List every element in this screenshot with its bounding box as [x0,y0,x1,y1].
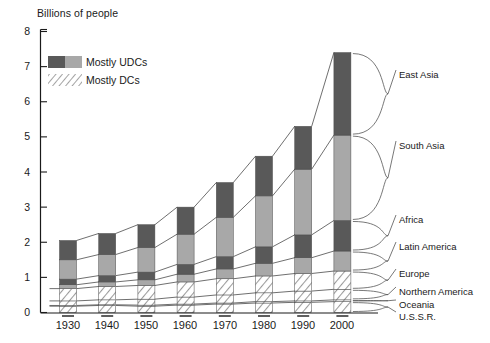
bar-segment [295,302,312,312]
connector-line [312,135,334,169]
bar-segment [177,207,194,234]
bar-segment [99,282,116,287]
connector-line [116,225,138,234]
bar-segment [216,304,233,312]
connector-line [194,279,216,282]
region-brace [353,54,388,135]
connector-line [233,263,255,269]
region-leader-line [388,307,396,312]
connector-line [77,282,99,285]
connector-line [312,289,334,291]
bar-segment [177,264,194,274]
connector-line [116,299,138,300]
connector-line [77,287,99,289]
connector-line [194,269,216,274]
bar-segment [177,234,194,264]
connector-line [273,235,295,247]
connector-line [273,301,295,302]
plot-area [0,0,490,343]
connector-line [116,248,138,255]
bar-segment [256,247,273,264]
legend-swatch-udc-light [65,56,82,68]
bar-segment [256,303,273,312]
connector-line [77,300,99,301]
connector-line [194,295,216,297]
connector-line [273,291,295,293]
region-leader-line [388,70,396,94]
region-leader-line [388,287,396,295]
connector-line [77,276,99,280]
connector-line [273,126,295,156]
region-leader-line [388,269,396,280]
population-stacked-bar-chart: Billions of people 8 7 6 5 4 3 2 1 0 Mos… [0,0,490,343]
bar-segment [138,299,155,305]
connector-line [312,251,334,258]
bar-segment [138,280,155,286]
region-brace [353,136,388,219]
bar-segment [60,289,77,301]
bar-segment [60,306,77,312]
bar-segment [216,269,233,279]
bar-segment [334,135,351,220]
bar-segment [138,306,155,312]
bar-segment [177,297,194,304]
region-brace [353,290,388,299]
connector-line [233,156,255,182]
connector-line [273,302,295,303]
connector-line [312,300,334,301]
bar-segment [334,53,351,136]
bar-segment [256,276,273,293]
connector-line [155,274,177,280]
connector-line [312,271,334,273]
bar-segment [256,263,273,276]
legend-swatches [48,56,82,86]
connector-line [155,207,177,225]
bar-segment [216,295,233,303]
connector-line [273,169,295,196]
bar-segment [216,279,233,295]
bar-segment [99,305,116,312]
bar-segment [60,285,77,289]
connector-line [116,305,138,306]
connector-line [77,255,99,260]
bar-segment [216,257,233,269]
connector-line [312,53,334,127]
bar-segment [295,169,312,235]
bar-segment [334,302,351,313]
connector-line [155,282,177,286]
region-leader-line [388,300,396,301]
connector-line [194,217,216,234]
bar-segment [177,274,194,282]
connector-line [77,233,99,240]
bar-segment [334,271,351,289]
bar-segment [256,293,273,302]
connector-line [116,280,138,282]
region-brace [353,221,388,250]
bar-segment [99,300,116,305]
connector-line [194,183,216,208]
bar-segment [295,235,312,258]
connector-line [233,247,255,257]
connector-line [273,274,295,276]
bar-segment [99,287,116,300]
connector-line [233,293,255,295]
bar-segment [334,251,351,271]
bar-segment [295,274,312,292]
bar-segment [138,248,155,273]
connector-line [273,258,295,264]
connector-line [233,196,255,217]
connector-line [233,276,255,279]
bar-segment [138,225,155,248]
connector-line [116,272,138,276]
label-leader-braces [353,54,396,312]
bar-segment [60,301,77,306]
region-brace [353,272,388,288]
legend-swatch-dc-hatch [48,74,82,86]
bar-segment [216,217,233,256]
bar-segment [334,289,351,300]
connector-line [155,234,177,247]
bar-segment [99,255,116,276]
region-leader-line [388,215,396,236]
bar-segment [60,240,77,259]
region-brace [353,303,388,312]
